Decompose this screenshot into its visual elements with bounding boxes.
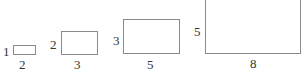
rectangle-1-height-label: 1 xyxy=(3,45,10,58)
rectangle-2 xyxy=(61,31,98,55)
rectangle-4-height-label: 5 xyxy=(194,25,201,38)
rectangle-3-height-label: 3 xyxy=(113,34,120,47)
rectangle-1 xyxy=(13,45,36,55)
rectangle-1-width-label: 2 xyxy=(19,58,26,71)
rectangle-2-width-label: 3 xyxy=(74,58,81,71)
rectangle-2-height-label: 2 xyxy=(50,38,57,51)
rectangle-4 xyxy=(205,0,301,54)
rectangle-3 xyxy=(123,19,180,54)
rectangle-4-width-label: 8 xyxy=(250,57,257,70)
rectangle-3-width-label: 5 xyxy=(147,58,154,71)
